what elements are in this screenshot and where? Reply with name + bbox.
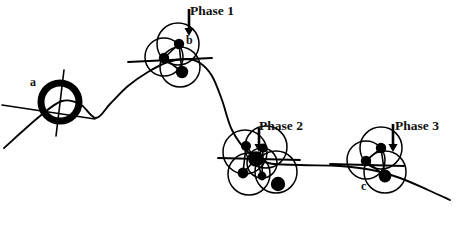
phase-2-cluster-dot-0 bbox=[241, 141, 251, 151]
phase-1-cluster-dot-2 bbox=[176, 66, 188, 78]
phase-3-cluster-dot-0 bbox=[376, 143, 386, 153]
node-a-label: a bbox=[30, 76, 36, 88]
phase-2-cluster-dot-3 bbox=[238, 168, 249, 179]
phase-2-label: Phase 2 bbox=[259, 119, 303, 133]
phase-3-cluster-dot-2 bbox=[379, 170, 392, 183]
node-c-label: c bbox=[361, 180, 366, 192]
phase-2-cluster-dot-2 bbox=[248, 151, 264, 167]
figure-canvas: Phase 1 Phase 2 Phase 3 a b c bbox=[0, 0, 456, 229]
phase-1-label: Phase 1 bbox=[190, 4, 234, 18]
node-a bbox=[2, 70, 95, 136]
phase-3-cluster-dot-1 bbox=[361, 156, 371, 166]
phase-1-cluster-dot-1 bbox=[159, 53, 169, 63]
phase-3-label: Phase 3 bbox=[395, 119, 439, 133]
node-b-label: b bbox=[186, 34, 193, 46]
clusters-group bbox=[2, 23, 406, 195]
phase-2-cluster-dot-4 bbox=[258, 172, 267, 181]
phase-3-cluster bbox=[330, 127, 406, 193]
phase-1-cluster-dot-0 bbox=[174, 39, 184, 49]
diagram-svg bbox=[0, 0, 456, 229]
phase-2-cluster-dot-5 bbox=[271, 177, 285, 191]
